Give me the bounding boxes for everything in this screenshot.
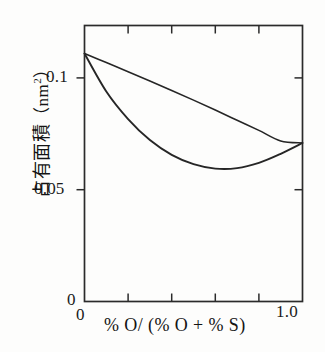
y-axis-left-ticks [77,78,85,190]
y-axis-unit-close: ） [33,60,52,78]
y-axis-unit-open: （nm [33,84,52,124]
chart-figure: 0.1 0.05 0 0 1.0 % O/ (% O + % S) 占有面積（n… [0,0,325,352]
y-axis-title: 占有面積（nm2） [27,45,53,213]
y-axis-title-jp: 占有面積 [32,124,52,198]
x-tick-label-0: 0 [76,306,85,323]
x-axis-top-ticks [128,26,259,34]
data-curve-lower [85,54,303,169]
x-axis-title: % O/ (% O + % S) [104,315,246,336]
y-tick-label-0: 0 [67,291,76,308]
y-axis-unit-exponent: 2 [31,78,43,84]
x-axis-minor-ticks [128,294,259,302]
data-curve-upper [85,54,303,143]
y-axis-right-ticks [295,78,303,190]
x-tick-label-1.0: 1.0 [276,303,298,320]
